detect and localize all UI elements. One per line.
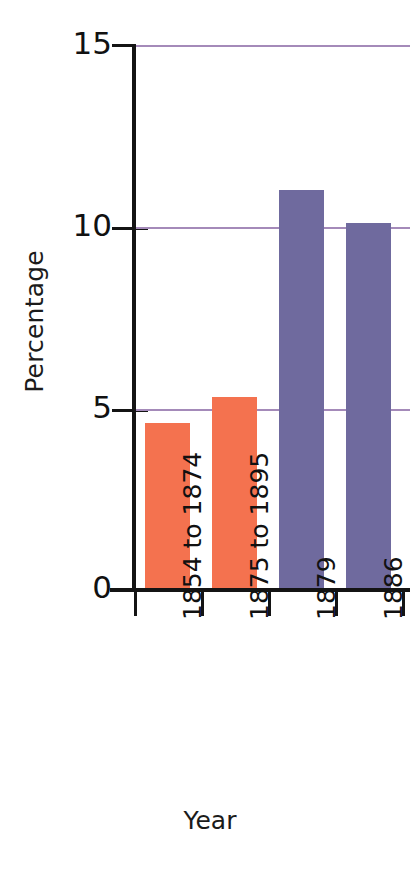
bar-1879 — [279, 190, 324, 590]
x-axis-title: Year — [0, 806, 420, 835]
y-axis-tick-labels: 15 10 5 0 — [34, 0, 112, 878]
y-tick-mark-15 — [112, 44, 134, 47]
x-tick-label-1886: 1886 — [379, 556, 408, 620]
bar-1886 — [346, 223, 391, 590]
x-tick-mark-0 — [134, 590, 137, 616]
gridline-15 — [134, 45, 410, 47]
y-tick-label-15: 15 — [42, 28, 112, 59]
x-tick-label-1854-to-1874: 1854 to 1874 — [178, 452, 207, 620]
y-tick-label-10: 10 — [42, 210, 112, 241]
y-tick-label-5: 5 — [42, 392, 112, 423]
bar-chart: Percentage 15 10 5 0 1854 to 1874 1875 t… — [0, 0, 420, 878]
y-tick-label-0: 0 — [42, 572, 112, 603]
y-axis-line — [132, 44, 136, 592]
y-tick-mark-10 — [112, 227, 134, 230]
x-tick-label-1875-to-1895: 1875 to 1895 — [245, 452, 274, 620]
x-tick-label-1879: 1879 — [312, 556, 341, 620]
y-tick-mark-5 — [112, 409, 134, 412]
